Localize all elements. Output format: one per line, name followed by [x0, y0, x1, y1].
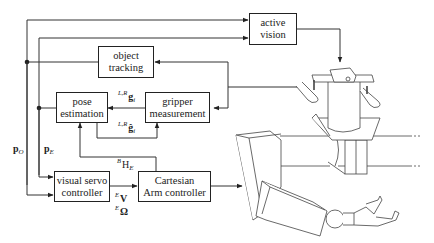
block-label-line1: pose	[72, 96, 91, 108]
block-label-line1: Cartesian	[155, 175, 195, 187]
signal-b-h-e: BHE	[117, 157, 134, 172]
gripper-measurement-block: gripper measurement	[145, 92, 210, 123]
block-label-line1: visual servo	[57, 175, 107, 187]
block-label-line1: gripper	[162, 96, 192, 108]
block-label-line2: controller	[62, 187, 103, 199]
signal-e-v: EV	[115, 191, 127, 204]
line-camera-to-gripper	[214, 87, 228, 108]
visual-servo-controller-block: visual servo controller	[54, 171, 110, 202]
signal-p-o: pO	[13, 143, 24, 156]
signal-e-omega: EΩ	[115, 204, 128, 217]
object-tracking-block: object tracking	[98, 46, 154, 78]
line-po-to-visual-servo	[27, 62, 53, 195]
cartesian-arm-controller-block: Cartesian Arm controller	[138, 171, 211, 202]
active-vision-block: active vision	[249, 13, 297, 45]
block-label-line2: estimation	[60, 108, 104, 120]
block-label-line1: active	[260, 17, 285, 29]
signal-g-measured: L,Rgi	[118, 89, 135, 104]
line-active-vision-to-camera	[297, 29, 340, 62]
block-label-line2: tracking	[109, 62, 143, 74]
block-label-line2: vision	[260, 29, 286, 41]
signal-g-estimated: L,Rĝi	[118, 120, 135, 135]
pose-estimation-block: pose estimation	[56, 92, 108, 123]
line-camera-to-object-tracking	[155, 62, 305, 87]
block-label-line2: Arm controller	[143, 187, 206, 199]
signal-p-e: pE	[44, 143, 54, 156]
robot-illustration	[236, 68, 420, 236]
block-label-line1: object	[113, 50, 139, 62]
block-label-line2: measurement	[150, 108, 206, 120]
